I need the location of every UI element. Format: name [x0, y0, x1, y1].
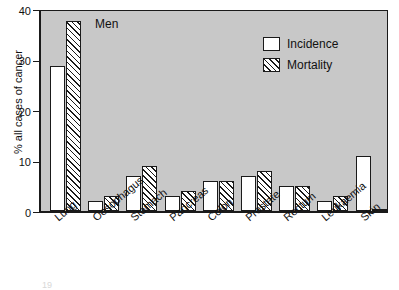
bar-lung-mortality	[66, 21, 81, 211]
legend-item-incidence: Incidence	[263, 37, 338, 51]
legend-item-mortality: Mortality	[263, 58, 338, 72]
x-axis-category-labels: LungOesophagusStomachPancreasColonProsta…	[0, 214, 399, 290]
legend-swatch-mortality-icon	[263, 58, 280, 72]
bar-lung-incidence	[50, 66, 65, 211]
legend-label-incidence: Incidence	[287, 37, 338, 51]
y-tick-mark-20	[33, 111, 40, 112]
legend-swatch-incidence-icon	[263, 37, 280, 51]
cancer-incidence-mortality-chart: 40 30 20 10 0 % all cases of cancer Men …	[0, 0, 399, 290]
legend-label-mortality: Mortality	[287, 58, 332, 72]
chart-legend: Incidence Mortality	[263, 37, 338, 79]
y-tick-mark-30	[33, 61, 40, 62]
men-annotation: Men	[95, 17, 118, 31]
y-tick-mark-10	[33, 162, 40, 163]
plot-area: Men Incidence Mortality	[40, 10, 388, 212]
y-tick-mark-0	[33, 212, 40, 213]
y-tick-mark-40	[33, 10, 40, 11]
y-tick-label-40: 40	[19, 6, 31, 17]
page-number-artifact: 19	[42, 280, 52, 290]
y-axis-title: % all cases of cancer	[12, 32, 24, 172]
